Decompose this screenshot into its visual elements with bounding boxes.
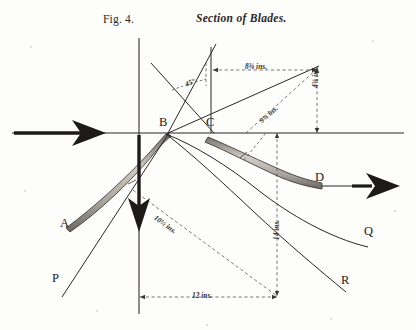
blade-section-drawing [0, 0, 416, 330]
scan-speck [330, 318, 332, 320]
outlet-flow-arrow [352, 173, 400, 199]
construction-line-45deg [151, 63, 214, 133]
dimension-line-14 [275, 133, 279, 296]
figure-container: Fig. 4. Section of Blades. A B C D P Q R… [0, 0, 416, 330]
blade-section-inner [66, 133, 171, 232]
scan-speck [394, 210, 396, 212]
dimension-line-9-38 [244, 68, 318, 160]
downward-flow-arrow [128, 135, 150, 232]
tangent-line-p-to-b [62, 133, 169, 297]
scan-speck [24, 190, 26, 192]
scan-speck [96, 310, 98, 312]
blade-curve-to-r [166, 134, 346, 292]
dimension-line-4-38 [315, 68, 320, 133]
dimension-line-12 [140, 295, 277, 299]
angle-leader-45 [172, 79, 206, 90]
scan-speck [206, 324, 208, 326]
scan-speck [30, 46, 32, 48]
inlet-flow-arrow [14, 120, 106, 146]
blade-back-curve-to-q [166, 134, 368, 247]
chord-line-b-to-upper-right [166, 66, 319, 134]
dimension-line-10-12 [133, 190, 277, 296]
blade-section-outer [205, 137, 322, 189]
scan-speck [372, 40, 374, 42]
construction-line-steep [168, 44, 216, 133]
